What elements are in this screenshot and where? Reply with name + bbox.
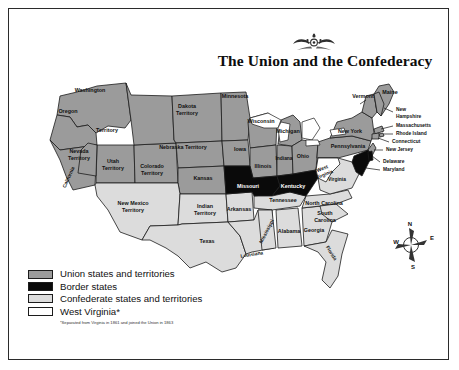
map-label-georgia: Georgia bbox=[304, 227, 325, 233]
map-label-washington-territory-2: Territory bbox=[96, 127, 118, 133]
legend-label-confederate: Confederate states and territories bbox=[60, 294, 202, 304]
map-label-connecticut: Connecticut bbox=[392, 139, 421, 144]
map-label-indian-territory: Indian bbox=[197, 203, 213, 209]
map-label-washington-territory: Washington bbox=[75, 87, 106, 93]
legend-swatch-union bbox=[28, 270, 53, 279]
legend-item-border: Border states bbox=[28, 280, 202, 292]
legend-label-border: Border states bbox=[60, 282, 117, 292]
map-label-tennessee: Tennessee bbox=[269, 197, 296, 203]
map-label-nebraska-territory: Nebraska Territory bbox=[159, 144, 207, 150]
map-label-dakota-territory-2: Territory bbox=[176, 110, 198, 116]
map-label-new-hampshire-2: Hampshire bbox=[396, 114, 422, 119]
map-label-rhode-island: Rhode Island bbox=[396, 131, 427, 136]
lake-erie bbox=[306, 140, 320, 146]
map-label-michigan: Michigan bbox=[276, 128, 299, 134]
map-label-maine: Maine bbox=[382, 89, 397, 95]
compass-east: E bbox=[430, 235, 434, 241]
map-label-virginia: Virginia bbox=[328, 177, 346, 182]
map-label-north-carolina: North Carolina bbox=[305, 200, 343, 206]
legend-swatch-border bbox=[28, 282, 53, 291]
map-label-south-carolina-2: Carolina bbox=[314, 217, 337, 223]
map-label-dakota-territory: Dakota bbox=[178, 103, 197, 109]
map-label-nevada-territory: Nevada bbox=[69, 148, 89, 154]
map-label-colorado-territory-2: Territory bbox=[141, 170, 163, 176]
map-label-texas: Texas bbox=[200, 238, 215, 244]
map-label-new-york: New York bbox=[338, 128, 362, 134]
legend-swatch-confederate bbox=[28, 294, 53, 303]
map-label-arkansas: Arkansas bbox=[227, 206, 251, 212]
compass-rose-icon: N E S W bbox=[393, 218, 439, 270]
map-label-massachusetts: Massachusetts bbox=[396, 123, 431, 128]
state-idaho-montana-territory bbox=[126, 83, 176, 145]
map-label-new-hampshire: New bbox=[396, 107, 406, 112]
map-label-maryland: Maryland bbox=[383, 167, 404, 172]
map-label-utah-territory: Utah bbox=[107, 158, 119, 164]
map-label-indiana: Indiana bbox=[275, 156, 292, 161]
map-label-ohio: Ohio bbox=[297, 153, 310, 159]
map-label-kentucky: Kentucky bbox=[281, 183, 305, 189]
map-label-new-mexico-territory: New Mexico bbox=[118, 200, 150, 206]
legend-label-west-virginia: West Virginia* bbox=[60, 307, 120, 317]
state-connecticut bbox=[372, 133, 379, 139]
map-label-iowa: Iowa bbox=[234, 146, 247, 152]
legend-label-union: Union states and territories bbox=[60, 269, 175, 279]
state-dakota-territory bbox=[172, 93, 222, 143]
state-rhode-island bbox=[379, 133, 384, 137]
map-label-kansas: Kansas bbox=[193, 175, 212, 181]
map-label-south-carolina: South bbox=[317, 210, 332, 216]
legend-swatch-west-virginia bbox=[28, 307, 53, 316]
map-label-pennsylvania: Pennsylvania bbox=[331, 143, 366, 149]
map-label-new-jersey: New Jersey bbox=[386, 147, 413, 152]
map-label-indian-territory-2: Territory bbox=[194, 210, 216, 216]
compass-north: N bbox=[408, 221, 412, 227]
state-texas bbox=[142, 222, 246, 272]
legend-item-union: Union states and territories bbox=[28, 268, 202, 280]
map-label-wisconsin: Wisconsin bbox=[248, 118, 275, 124]
compass-west: W bbox=[393, 239, 399, 245]
state-illinois bbox=[250, 145, 277, 178]
state-utah-territory bbox=[96, 145, 135, 183]
map-label-missouri: Missouri bbox=[237, 183, 260, 189]
map-legend: Union states and territories Border stat… bbox=[28, 268, 202, 325]
map-label-new-mexico-territory-2: Territory bbox=[122, 207, 144, 213]
map-label-utah-territory-2: Territory bbox=[102, 165, 124, 171]
lake-huron bbox=[302, 118, 320, 140]
map-label-alabama: Alabama bbox=[278, 228, 301, 234]
state-iowa bbox=[222, 140, 250, 166]
map-label-oregon: Oregon bbox=[58, 108, 77, 114]
map-label-minnesota: Minnesota bbox=[222, 93, 250, 99]
legend-item-confederate: Confederate states and territories bbox=[28, 293, 202, 305]
map-label-delaware: Delaware bbox=[383, 159, 405, 164]
map-label-vermont: Vermont bbox=[352, 93, 374, 99]
compass-south: S bbox=[411, 264, 415, 270]
state-minnesota bbox=[221, 92, 250, 141]
legend-footnote: *Separated from Virginia in 1861 and joi… bbox=[60, 320, 197, 325]
legend-item-west-virginia: West Virginia* bbox=[28, 305, 202, 317]
map-label-illinois: Illinois bbox=[254, 163, 271, 169]
map-label-colorado-territory: Colorado bbox=[140, 163, 164, 169]
map-callout-labels: NewHampshireMassachusettsRhode IslandCon… bbox=[383, 107, 431, 172]
map-label-nevada-territory-2: Territory bbox=[68, 155, 90, 161]
